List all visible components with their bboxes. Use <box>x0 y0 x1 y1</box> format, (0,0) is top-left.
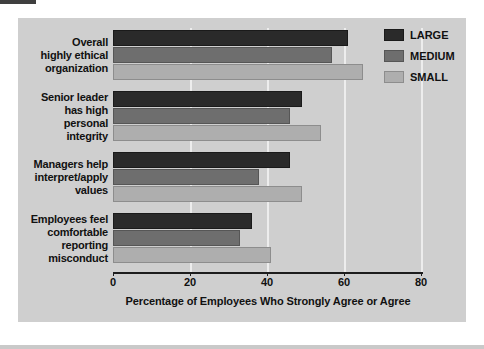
chart-legend: LARGEMEDIUMSMALL <box>384 26 466 89</box>
scan-artifact-top-mark <box>0 0 36 4</box>
legend-swatch-small <box>384 71 404 83</box>
category-label: Managers helpinterpret/applyvalues <box>0 158 108 197</box>
bar-group <box>113 213 421 267</box>
tick-label-60: 60 <box>329 276 359 288</box>
bar-medium <box>113 108 290 124</box>
bar-medium <box>113 169 259 185</box>
tick-label-0: 0 <box>98 276 128 288</box>
category-label-line: comfortable <box>0 226 108 239</box>
bar-small <box>113 247 271 263</box>
legend-label: MEDIUM <box>410 50 455 62</box>
category-label-line: Managers help <box>0 158 108 171</box>
bar-large <box>113 91 302 107</box>
tick-label-20: 20 <box>175 276 205 288</box>
legend-label: LARGE <box>410 29 449 41</box>
bar-small <box>113 125 321 141</box>
legend-item-medium: MEDIUM <box>384 47 466 65</box>
bar-small <box>113 64 363 80</box>
legend-swatch-medium <box>384 50 404 62</box>
category-label-line: reporting <box>0 239 108 252</box>
category-label-line: misconduct <box>0 252 108 265</box>
scan-artifact-bottom-rule <box>0 345 484 349</box>
bar-group <box>113 30 421 84</box>
bar-small <box>113 186 302 202</box>
category-label-line: Employees feel <box>0 213 108 226</box>
bar-large <box>113 152 290 168</box>
tick-label-40: 40 <box>252 276 282 288</box>
category-label: Senior leaderhas highpersonalintegrity <box>0 91 108 143</box>
bar-medium <box>113 230 240 246</box>
category-label: Employees feelcomfortablereportingmiscon… <box>0 213 108 265</box>
bar-group <box>113 152 421 206</box>
bar-chart-panel: Overallhighly ethicalorganizationSenior … <box>18 18 466 322</box>
bar-large <box>113 30 348 46</box>
bar-medium <box>113 47 332 63</box>
legend-item-large: LARGE <box>384 26 466 44</box>
category-axis-labels: Overallhighly ethicalorganizationSenior … <box>18 28 108 272</box>
x-axis-title: Percentage of Employees Who Strongly Agr… <box>78 295 458 307</box>
category-label-line: values <box>0 184 108 197</box>
legend-swatch-large <box>384 29 404 41</box>
plot-area <box>113 28 421 272</box>
category-label-line: highly ethical <box>0 49 108 62</box>
category-label-line: Overall <box>0 36 108 49</box>
category-label-line: interpret/apply <box>0 171 108 184</box>
category-label-line: Senior leader <box>0 91 108 104</box>
category-label: Overallhighly ethicalorganization <box>0 36 108 75</box>
legend-label: SMALL <box>410 71 448 83</box>
legend-item-small: SMALL <box>384 68 466 86</box>
category-label-line: has high <box>0 104 108 117</box>
category-label-line: integrity <box>0 130 108 143</box>
bar-large <box>113 213 252 229</box>
category-label-line: organization <box>0 62 108 75</box>
tick-label-80: 80 <box>406 276 436 288</box>
x-axis-line <box>113 272 423 274</box>
bar-group <box>113 91 421 145</box>
category-label-line: personal <box>0 117 108 130</box>
